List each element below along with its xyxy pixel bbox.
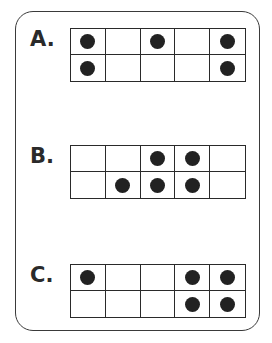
frame-cell xyxy=(141,146,176,172)
label-b: B. xyxy=(30,144,54,168)
dot-icon xyxy=(185,270,200,285)
dot-icon xyxy=(185,297,200,312)
dot-icon xyxy=(185,178,200,193)
ten-frame-b xyxy=(70,145,246,199)
dot-icon xyxy=(150,34,165,49)
frame-cell xyxy=(210,172,245,198)
ten-frame-c xyxy=(70,264,246,318)
dot-icon xyxy=(220,270,235,285)
dot-icon xyxy=(150,151,165,166)
frame-cell xyxy=(210,29,245,55)
frame-cell xyxy=(141,172,176,198)
frame-cell xyxy=(71,265,106,291)
frame-cell xyxy=(141,291,176,317)
frame-cell xyxy=(71,172,106,198)
frame-cell xyxy=(71,29,106,55)
frame-cell xyxy=(210,291,245,317)
frame-cell xyxy=(141,55,176,81)
frame-cell xyxy=(141,265,176,291)
frame-cell xyxy=(210,265,245,291)
frame-cell xyxy=(175,55,210,81)
frame-cell xyxy=(71,146,106,172)
dot-icon xyxy=(185,151,200,166)
frame-cell xyxy=(106,291,141,317)
frame-cell xyxy=(141,29,176,55)
frame-cell xyxy=(175,291,210,317)
dot-icon xyxy=(115,178,130,193)
ten-frame-a xyxy=(70,28,246,82)
dot-icon xyxy=(220,297,235,312)
dot-icon xyxy=(220,61,235,76)
frame-cell xyxy=(106,55,141,81)
label-c: C. xyxy=(30,263,53,287)
label-a: A. xyxy=(30,27,55,51)
frame-cell xyxy=(71,55,106,81)
frame-cell xyxy=(175,146,210,172)
dot-icon xyxy=(220,34,235,49)
dot-icon xyxy=(80,61,95,76)
frame-cell xyxy=(210,146,245,172)
frame-cell xyxy=(106,146,141,172)
frame-cell xyxy=(106,265,141,291)
frame-cell xyxy=(71,291,106,317)
frame-cell xyxy=(175,265,210,291)
frame-cell xyxy=(106,172,141,198)
dot-icon xyxy=(80,270,95,285)
frame-cell xyxy=(175,172,210,198)
frame-cell xyxy=(210,55,245,81)
frame-cell xyxy=(106,29,141,55)
dot-icon xyxy=(150,178,165,193)
frame-cell xyxy=(175,29,210,55)
dot-icon xyxy=(80,34,95,49)
